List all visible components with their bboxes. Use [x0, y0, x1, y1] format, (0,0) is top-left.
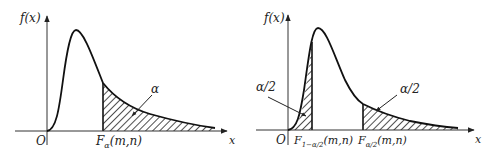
- diagram-canvas: f(x) x O Fα(m,n) α f(x) x O F1−α/2(m,n) …: [0, 0, 492, 159]
- x-axis-label: x: [475, 133, 482, 146]
- alpha-area-label: α: [151, 82, 159, 96]
- upper-critical-value-label: Fα/2(m,n): [357, 134, 407, 149]
- lower-critical-value-label: F1−α/2(m,n): [293, 134, 353, 149]
- y-axis-label: f(x): [263, 11, 285, 25]
- y-axis-label: f(x): [19, 11, 41, 25]
- right-panel: f(x) x O F1−α/2(m,n) Fα/2(m,n) α/2 α/2: [256, 11, 482, 149]
- origin-label: O: [276, 133, 286, 147]
- left-panel: f(x) x O Fα(m,n) α: [15, 11, 236, 150]
- x-axis-label: x: [229, 134, 236, 147]
- right-alpha-half-label: α/2: [400, 82, 420, 96]
- origin-label: O: [36, 134, 46, 148]
- right-alpha-half-pointer: [376, 95, 397, 111]
- critical-value-label: Fα(m,n): [95, 134, 142, 150]
- left-alpha-half-label: α/2: [256, 80, 276, 94]
